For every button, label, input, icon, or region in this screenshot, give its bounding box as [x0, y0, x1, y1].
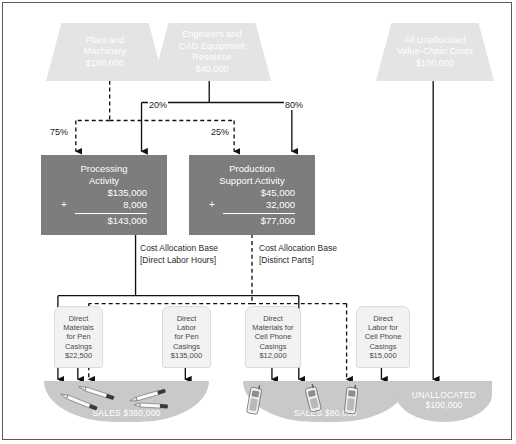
tag-amount: $12,000 — [259, 351, 286, 360]
pen-icon — [60, 392, 98, 410]
resource-pool-plant: Plant and Machinery $180,000 — [46, 23, 164, 81]
direct-cost-labor-pen: Direct Labor for Pen Casings $135,000 — [162, 306, 211, 368]
tag-line: for Pen — [174, 332, 198, 341]
tag-line: Casings — [259, 342, 286, 351]
activity-name-line1: Processing — [81, 163, 128, 175]
tag-line: Materials for — [252, 323, 293, 332]
resource-pool-engineers: Engineers and CAD Equipment Resource $40… — [153, 23, 271, 81]
cellphone-icon — [304, 383, 321, 412]
activity-processing: Processing Activity $135,000 + 8,000 $14… — [41, 155, 167, 235]
cab-basis: [Direct Labor Hours] — [140, 255, 218, 267]
pool-line: Machinery — [84, 46, 126, 58]
pool-line: Value-Chain Costs — [397, 46, 473, 58]
tag-line: Casings — [369, 342, 396, 351]
tag-line: Casings — [65, 342, 92, 351]
pool-amount: $100,000 — [416, 58, 454, 70]
activity-base-amount: $45,000 — [223, 187, 295, 199]
pool-amount: $40,000 — [195, 64, 228, 76]
pen-icon — [78, 385, 114, 400]
cellphone-icon — [246, 384, 262, 414]
cab-title: Cost Allocation Base — [259, 243, 337, 255]
pool-amount: $180,000 — [86, 58, 124, 70]
tag-line: Direct — [69, 314, 89, 323]
pool-line: Plant and — [86, 35, 125, 47]
direct-cost-materials-pen: Direct Materials for Pen Casings $22,500 — [54, 306, 103, 368]
cab-basis: [Distinct Parts] — [259, 255, 337, 267]
sum-rule — [223, 213, 295, 214]
activity-name-line2: Activity — [89, 175, 119, 187]
output-unallocated-label: UNALLOCATED — [412, 390, 476, 400]
resource-pool-unallocated: All Unallocated Value-Chain Costs $100,0… — [376, 23, 494, 81]
tag-line: Direct — [177, 314, 197, 323]
percent-label-engineers-processing: 20% — [148, 100, 168, 110]
pen-icon-group — [44, 381, 209, 422]
plus-sign: + — [209, 199, 223, 211]
direct-cost-labor-cellphone: Direct Labor for Cell Phone Casings $15,… — [356, 306, 410, 368]
activity-total-amount: $77,000 — [223, 215, 295, 227]
activity-total-row: $77,000 — [209, 215, 295, 227]
tag-amount: $22,500 — [65, 351, 92, 360]
sum-rule — [75, 213, 147, 214]
tag-line: Materials — [63, 323, 93, 332]
pool-line: CAD Equipment — [179, 41, 245, 53]
activity-base-row: $135,000 — [61, 187, 147, 199]
activity-name-line1: Production — [229, 163, 274, 175]
pen-icon — [129, 389, 166, 403]
output-unallocated-amount: $100,000 — [425, 400, 462, 410]
percent-label-engineers-support: 80% — [284, 100, 304, 110]
pool-line: Engineers and — [182, 29, 241, 41]
cellphone-icon-group — [243, 381, 408, 422]
plus-sign: + — [61, 199, 75, 211]
tag-amount: $15,000 — [369, 351, 396, 360]
activity-base-amount: $135,000 — [75, 187, 147, 199]
activity-added-amount: 32,000 — [223, 199, 295, 211]
activity-added-row: + 8,000 — [61, 199, 147, 211]
output-unallocated: UNALLOCATED $100,000 — [396, 381, 492, 422]
activity-total-row: $143,000 — [61, 215, 147, 227]
percent-label-plant-support: 25% — [210, 127, 230, 137]
pen-icon — [134, 403, 168, 409]
cost-allocation-base-processing: Cost Allocation Base [Direct Labor Hours… — [140, 243, 218, 266]
activity-production-support: Production Support Activity $45,000 + 32… — [189, 155, 315, 235]
tag-line: Direct — [263, 314, 283, 323]
activity-added-row: + 32,000 — [209, 199, 295, 211]
cab-title: Cost Allocation Base — [140, 243, 218, 255]
activity-added-amount: 8,000 — [75, 199, 147, 211]
tag-line: Labor — [177, 323, 196, 332]
tag-amount: $135,000 — [171, 351, 202, 360]
tag-line: Cell Phone — [365, 332, 402, 341]
tag-line: for Pen — [66, 332, 90, 341]
diagram-frame: Plant and Machinery $180,000 Engineers a… — [2, 2, 512, 440]
percent-label-plant-processing: 75% — [49, 127, 69, 137]
tag-line: Labor for — [368, 323, 398, 332]
activity-base-row: $45,000 — [209, 187, 295, 199]
direct-cost-materials-cellphone: Direct Materials for Cell Phone Casings … — [245, 306, 301, 368]
cellphone-icon — [344, 384, 358, 414]
pool-line: Resource — [192, 52, 231, 64]
tag-line: Direct — [373, 314, 393, 323]
cost-allocation-base-support: Cost Allocation Base [Distinct Parts] — [259, 243, 337, 266]
tag-line: Cell Phone — [255, 332, 292, 341]
activity-total-amount: $143,000 — [75, 215, 147, 227]
pool-line: All Unallocated — [404, 35, 466, 47]
activity-name-line2: Support Activity — [219, 175, 284, 187]
tag-line: Casings — [173, 342, 200, 351]
